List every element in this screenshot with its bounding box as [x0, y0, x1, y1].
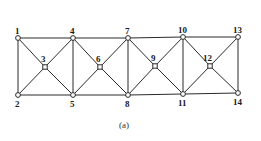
node-label-5: 5 — [70, 99, 75, 109]
member-3-4 — [45, 38, 73, 67]
node-label-4: 4 — [70, 26, 75, 36]
node-7 — [126, 36, 131, 41]
node-13 — [236, 35, 241, 40]
node-label-13: 13 — [233, 25, 243, 35]
member-2-3 — [18, 67, 45, 95]
member-5-6 — [73, 67, 100, 95]
node-label-7: 7 — [125, 26, 130, 36]
node-5 — [71, 93, 76, 98]
node-3 — [43, 65, 47, 69]
member-12-13 — [210, 37, 238, 66]
node-10 — [181, 35, 186, 40]
truss-members — [18, 37, 238, 95]
node-label-14: 14 — [233, 97, 243, 107]
node-label-8: 8 — [125, 99, 130, 109]
member-7-10 — [128, 37, 183, 38]
node-label-12: 12 — [203, 53, 213, 63]
node-label-2: 2 — [15, 99, 20, 109]
node-9 — [153, 64, 157, 68]
member-8-9 — [128, 66, 155, 95]
node-label-1: 1 — [15, 26, 20, 36]
node-2 — [16, 93, 21, 98]
node-label-3: 3 — [41, 54, 46, 64]
node-label-10: 10 — [178, 25, 188, 35]
node-6 — [98, 65, 102, 69]
node-label-6: 6 — [96, 54, 101, 64]
node-12 — [208, 64, 212, 68]
node-14 — [236, 91, 241, 96]
node-8 — [126, 93, 131, 98]
node-1 — [16, 36, 21, 41]
member-11-14 — [183, 93, 238, 94]
member-8-11 — [128, 94, 183, 95]
member-9-11 — [155, 66, 183, 94]
member-9-10 — [155, 37, 183, 66]
member-12-14 — [210, 66, 238, 93]
member-6-7 — [100, 38, 128, 67]
member-6-8 — [100, 67, 128, 95]
member-11-12 — [183, 66, 210, 94]
node-11 — [181, 92, 186, 97]
node-label-11: 11 — [178, 98, 187, 108]
node-label-9: 9 — [151, 53, 156, 63]
member-3-5 — [45, 67, 73, 95]
figure-caption: (a) — [119, 120, 129, 130]
truss-diagram: 1234567891011121314 (a) — [0, 0, 261, 141]
node-4 — [71, 36, 76, 41]
